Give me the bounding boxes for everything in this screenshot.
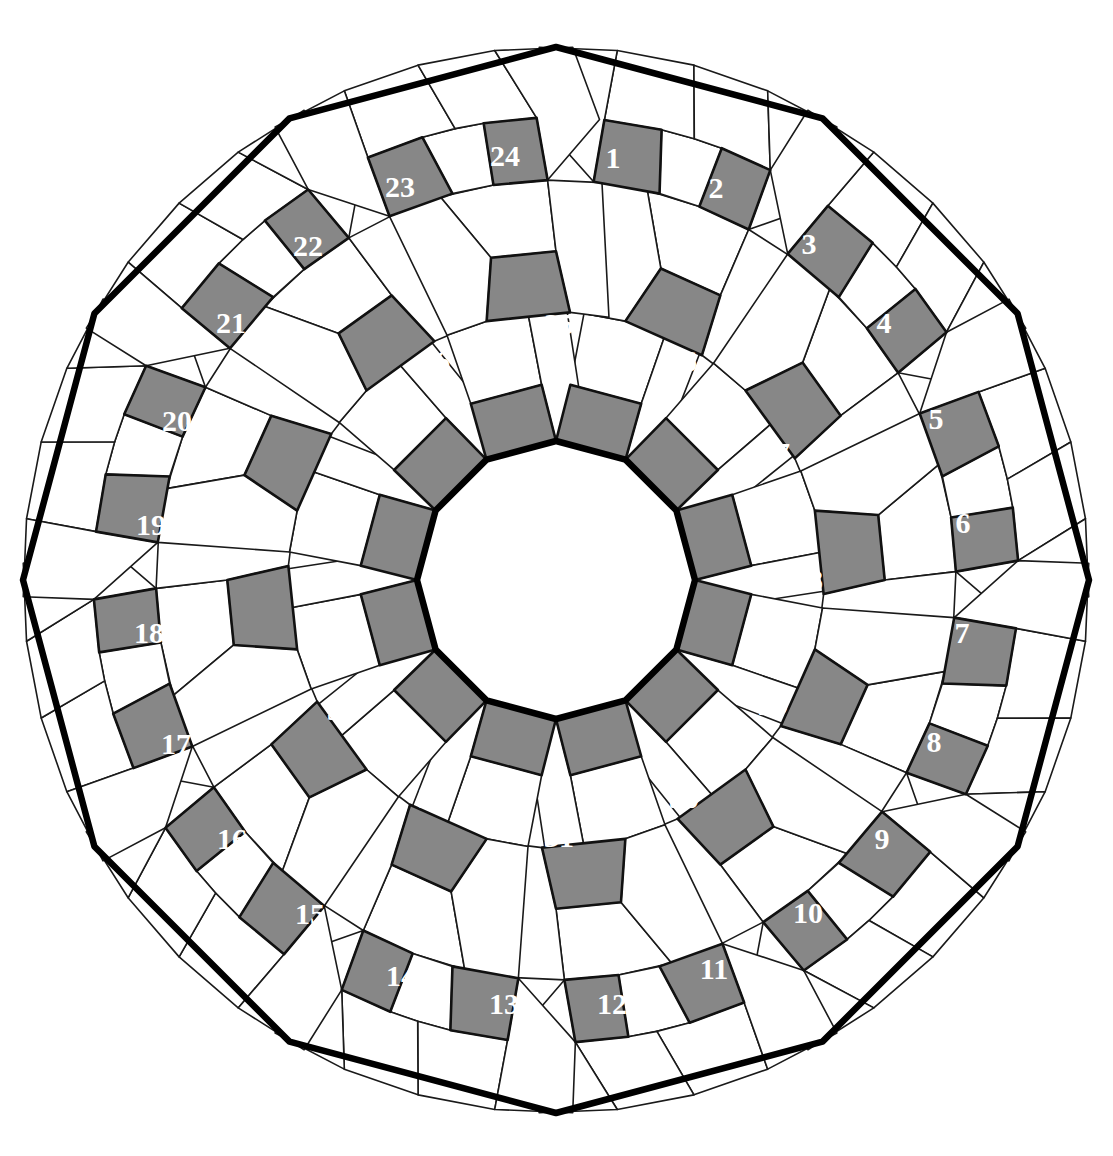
- outer-ring-highlight-tile[interactable]: [951, 508, 1018, 572]
- outer-ring-highlight-tile[interactable]: [942, 618, 1016, 686]
- middle-ring-highlight-tile[interactable]: [227, 566, 297, 649]
- tiling-figure: 1234567891011121314151617181920212223242…: [0, 0, 1113, 1156]
- outer-ring-highlight-tile[interactable]: [564, 975, 628, 1042]
- middle-ring-highlight-tile[interactable]: [542, 839, 625, 909]
- outer-ring-highlight-tile[interactable]: [484, 118, 548, 185]
- tiling-canvas: 1234567891011121314151617181920212223242…: [0, 0, 1113, 1156]
- middle-ring-highlight-tile[interactable]: [815, 511, 885, 594]
- outer-ring-highlight-tile[interactable]: [450, 966, 518, 1040]
- outer-ring-highlight-tile[interactable]: [594, 120, 662, 194]
- outer-ring-highlight-tile[interactable]: [94, 588, 161, 652]
- middle-ring-highlight-tile[interactable]: [487, 251, 570, 321]
- outer-ring-highlight-tile[interactable]: [96, 474, 170, 542]
